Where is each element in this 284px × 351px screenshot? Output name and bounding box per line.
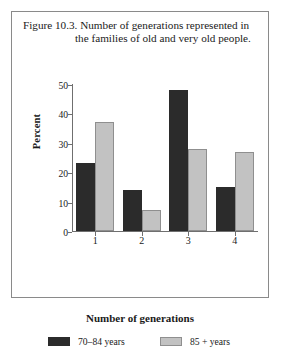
- caption-label: Figure 10.3.: [23, 19, 77, 31]
- bar-group-3: [169, 84, 207, 231]
- y-tick-mark: [68, 114, 72, 115]
- y-tick-mark: [68, 173, 72, 174]
- y-axis-tick-10: 10: [42, 197, 68, 208]
- y-axis-tick-40: 40: [42, 109, 68, 120]
- legend-item-2[interactable]: 85 + years: [160, 336, 230, 347]
- x-axis-tick-4: 4: [232, 235, 237, 246]
- y-axis-tick-30: 30: [42, 138, 68, 149]
- y-axis-tick-50: 50: [42, 80, 68, 91]
- y-axis-label: Percent: [31, 97, 42, 167]
- x-axis-tick-3: 3: [186, 235, 191, 246]
- legend-item-1[interactable]: 70–84 years: [48, 336, 125, 347]
- chart-plot-area: Percent 01020304050 1234 Number of gener…: [12, 74, 268, 246]
- y-axis-tick-labels: 01020304050: [42, 84, 68, 232]
- legend-swatch-2: [160, 337, 182, 346]
- bar-2-series-1[interactable]: [123, 190, 142, 231]
- y-tick-mark: [68, 144, 72, 145]
- figure-caption: Figure 10.3. Number of generations repre…: [23, 19, 261, 46]
- y-tick-mark: [68, 232, 72, 233]
- x-axis-tick-labels: 1234: [72, 235, 258, 249]
- legend-swatch-1: [48, 337, 70, 346]
- x-axis-tick-2: 2: [139, 235, 144, 246]
- bar-3-series-2[interactable]: [188, 149, 207, 231]
- bar-2-series-2[interactable]: [142, 210, 161, 231]
- chart-legend: 70–84 years85 + years: [12, 336, 268, 351]
- bar-series-container: [72, 84, 258, 231]
- bar-group-2: [123, 84, 161, 231]
- y-axis-tick-20: 20: [42, 168, 68, 179]
- legend-label-2: 85 + years: [190, 336, 230, 347]
- y-axis-tick-0: 0: [42, 227, 68, 238]
- bar-4-series-1[interactable]: [216, 187, 235, 231]
- bar-1-series-1[interactable]: [76, 163, 95, 231]
- bar-group-4: [216, 84, 254, 231]
- chart-axes: [72, 84, 258, 232]
- bar-3-series-1[interactable]: [169, 90, 188, 231]
- bar-4-series-2[interactable]: [235, 152, 254, 231]
- bar-group-1: [76, 84, 114, 231]
- legend-label-1: 70–84 years: [78, 336, 125, 347]
- y-tick-mark: [68, 203, 72, 204]
- caption-text: Number of generations represented in the…: [75, 19, 251, 44]
- y-tick-mark: [68, 85, 72, 86]
- x-axis-label: Number of generations: [12, 312, 268, 324]
- bar-1-series-2[interactable]: [95, 122, 114, 231]
- figure-frame: Figure 10.3. Number of generations repre…: [11, 11, 269, 298]
- x-axis-line: [72, 231, 258, 232]
- x-axis-tick-1: 1: [93, 235, 98, 246]
